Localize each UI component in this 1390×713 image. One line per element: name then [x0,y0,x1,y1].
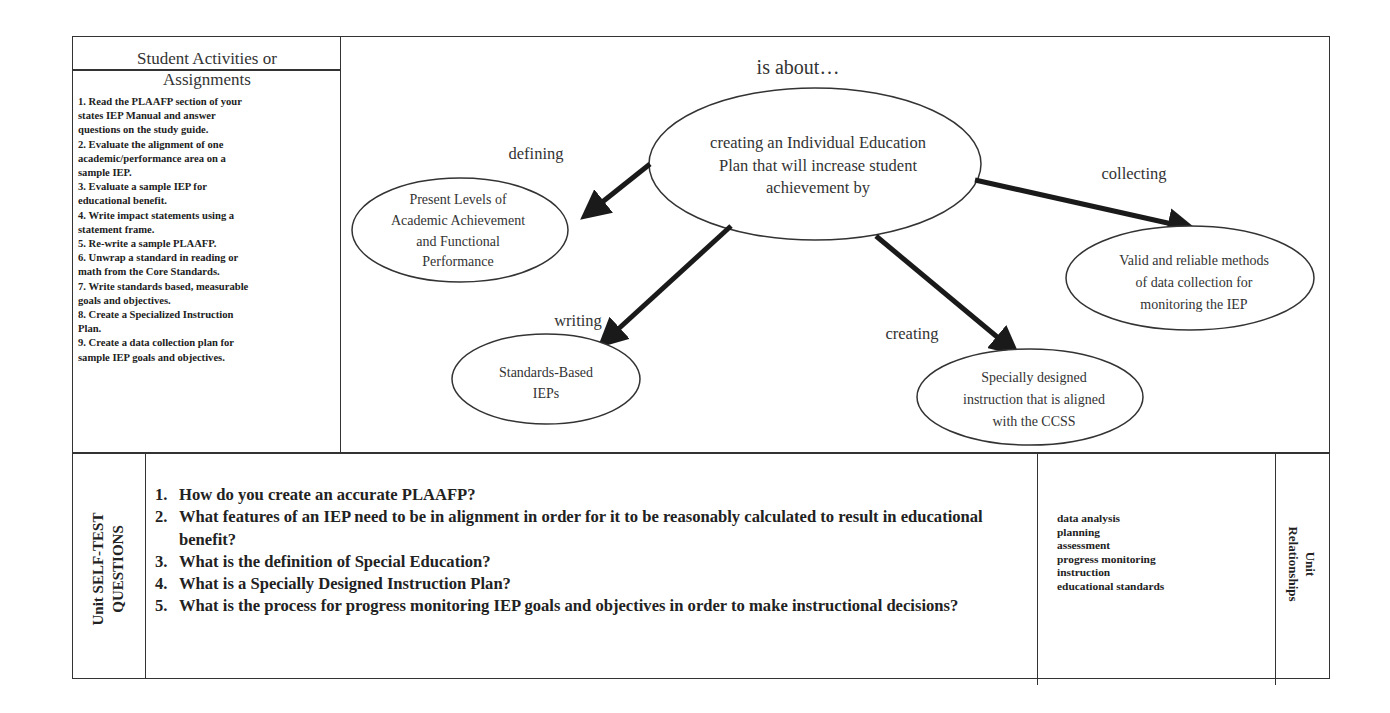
question-item: 5.What is the process for progress monit… [155,595,1035,617]
arrow-collecting [975,180,1190,228]
node-standards-based-ieps-line1: Standards-Based [499,365,593,380]
link-label-writing: writing [554,311,602,330]
arrow-writing [603,226,731,343]
link-label-collecting: collecting [1101,164,1166,183]
relationships-list: data analysis planning assessment progre… [1057,512,1257,594]
self-test-label-line1: Unit SELF-TEST [88,513,108,626]
question-item: 4.What is a Specially Designed Instructi… [155,573,1035,595]
node-standards-based-ieps-line2: IEPs [533,386,559,401]
link-label-creating: creating [885,324,938,343]
node-data-collection-line3: monitoring the IEP [1140,297,1248,312]
node-present-levels-line2: Academic Achievement [391,213,525,228]
self-test-label-line2: QUESTIONS [108,525,128,613]
relationship-item: assessment [1057,539,1257,553]
self-test-label: Unit SELF-TEST QUESTIONS [84,459,132,679]
center-node-line1: creating an Individual Education [710,133,926,152]
relationships-label-line2: Relationships [1285,526,1302,601]
question-item: 1.How do you create an accurate PLAAFP? [155,484,1035,506]
node-present-levels-line3: and Functional [416,234,500,249]
relationships-label-line1: Unit [1302,552,1319,577]
self-test-questions: 1.How do you create an accurate PLAAFP? … [155,484,1035,618]
relationship-item: data analysis [1057,512,1257,526]
node-specially-designed-line3: with the CCSS [992,414,1075,429]
arrow-defining [586,164,650,215]
question-item: 3.What is the definition of Special Educ… [155,551,1035,573]
node-present-levels-line1: Present Levels of [409,192,507,207]
question-item: 2.What features of an IEP need to be in … [155,506,1035,551]
relationship-item: progress monitoring [1057,553,1257,567]
node-data-collection-line1: Valid and reliable methods [1119,253,1269,268]
node-specially-designed-line2: instruction that is aligned [963,392,1105,407]
center-node-line3: achievement by [766,178,871,197]
concept-map-heading: is about… [757,56,840,78]
relationship-item: planning [1057,526,1257,540]
relationship-item: educational standards [1057,580,1257,594]
relationship-item: instruction [1057,566,1257,580]
relationships-label: Unit Relationships [1282,514,1322,614]
node-data-collection-line2: of data collection for [1135,275,1252,290]
node-specially-designed-line1: Specially designed [981,370,1086,385]
center-node-line2: Plan that will increase student [719,156,917,175]
node-present-levels-line4: Performance [422,254,494,269]
link-label-defining: defining [509,144,564,163]
